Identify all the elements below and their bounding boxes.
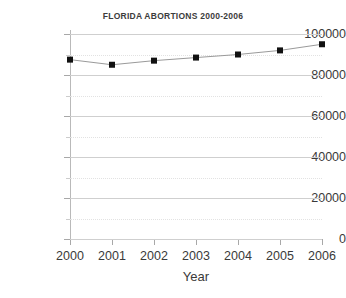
x-axis-tick-label: 2000 <box>47 249 93 263</box>
data-point-marker <box>235 52 241 58</box>
chart-container: FLORIDA ABORTIONS 2000-2006 020000400006… <box>0 0 346 298</box>
x-axis-tick-label: 2001 <box>89 249 135 263</box>
data-point-marker <box>67 57 73 63</box>
x-axis-tick-label: 2005 <box>257 249 303 263</box>
x-axis-tick-label: 2003 <box>173 249 219 263</box>
data-point-marker <box>277 47 283 53</box>
data-point-marker <box>193 55 199 61</box>
data-point-marker <box>109 62 115 68</box>
plot-area <box>70 34 322 239</box>
grid-line-major <box>70 239 322 240</box>
data-point-marker <box>319 41 325 47</box>
data-series-group <box>70 34 322 239</box>
data-point-marker <box>151 58 157 64</box>
chart-title: FLORIDA ABORTIONS 2000-2006 <box>0 11 346 21</box>
x-axis-tick-label: 2002 <box>131 249 177 263</box>
x-axis-tick-label: 2004 <box>215 249 261 263</box>
series-line-florida-abortions <box>70 44 322 65</box>
x-axis-tick-mark <box>322 239 323 245</box>
x-axis-title: Year <box>70 269 322 284</box>
x-axis-tick-label: 2006 <box>299 249 345 263</box>
